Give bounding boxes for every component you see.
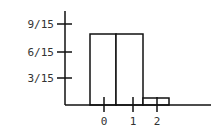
histogram-bar	[90, 34, 116, 105]
x-tick-label: 2	[154, 115, 161, 128]
y-tick-label: 9/15	[28, 18, 55, 31]
x-tick-label: 1	[130, 115, 137, 128]
y-tick-label: 6/15	[28, 46, 55, 59]
histogram-chart: 9/156/153/15 012	[0, 0, 222, 132]
histogram-bar	[143, 98, 169, 105]
y-tick-label: 3/15	[28, 72, 55, 85]
histogram-bar	[116, 34, 143, 105]
bars	[90, 34, 169, 105]
x-tick-label: 0	[101, 115, 108, 128]
